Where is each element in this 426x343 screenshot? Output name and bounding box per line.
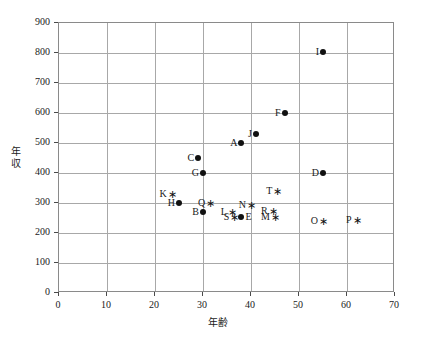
x-axis-tick — [202, 292, 203, 296]
data-point-label: I — [316, 47, 319, 57]
data-point-label: T — [266, 186, 272, 196]
data-point-label: E — [245, 212, 251, 222]
x-axis-tick-label: 50 — [283, 299, 313, 310]
y-axis-tick — [54, 232, 58, 233]
data-point-label: O — [311, 216, 318, 226]
data-point-label: A — [230, 138, 237, 148]
data-point-label: Q — [198, 198, 205, 208]
data-point-p: ∗P — [353, 217, 361, 223]
y-axis-tick-label: 100 — [20, 256, 50, 267]
x-axis-tick-label: 0 — [43, 299, 73, 310]
data-point-s: ∗S — [230, 214, 238, 220]
dot-marker-icon — [195, 155, 201, 161]
gridline-vertical — [107, 23, 108, 291]
data-point-r: ∗R — [269, 208, 277, 214]
y-axis-tick-label: 500 — [20, 136, 50, 147]
asterisk-marker-icon: ∗ — [273, 188, 281, 194]
gridline-horizontal — [59, 83, 393, 84]
x-axis-tick — [250, 292, 251, 296]
y-axis-tick — [54, 52, 58, 53]
dot-marker-icon — [320, 49, 326, 55]
plot-area: ABCDEFGHIJ∗K∗L∗M∗N∗O∗P∗Q∗R∗S∗T — [58, 22, 394, 292]
data-point-d: D — [320, 170, 326, 176]
asterisk-marker-icon: ∗ — [230, 214, 238, 220]
y-axis-tick-label: 800 — [20, 46, 50, 57]
y-axis-tick — [54, 262, 58, 263]
gridline-vertical — [251, 23, 252, 291]
data-point-g: G — [200, 170, 206, 176]
data-point-label: J — [248, 129, 252, 139]
data-point-label: S — [224, 212, 230, 222]
data-point-a: A — [238, 140, 244, 146]
y-axis-tick-label: 300 — [20, 196, 50, 207]
gridline-vertical — [347, 23, 348, 291]
data-point-f: F — [282, 110, 288, 116]
dot-marker-icon — [238, 214, 244, 220]
y-axis-tick — [54, 292, 58, 293]
x-axis-tick — [346, 292, 347, 296]
data-point-c: C — [195, 155, 201, 161]
x-axis-title: 年齢 — [208, 317, 228, 328]
data-point-label: P — [346, 215, 352, 225]
asterisk-marker-icon: ∗ — [353, 217, 361, 223]
y-axis-tick — [54, 172, 58, 173]
data-point-o: ∗O — [319, 218, 327, 224]
gridline-vertical — [299, 23, 300, 291]
data-point-label: C — [188, 153, 195, 163]
data-point-h: H — [176, 200, 182, 206]
gridline-horizontal — [59, 173, 393, 174]
data-point-j: J — [253, 131, 259, 137]
dot-marker-icon — [253, 131, 259, 137]
x-axis-tick-label: 10 — [91, 299, 121, 310]
x-axis-tick-label: 60 — [331, 299, 361, 310]
gridline-horizontal — [59, 143, 393, 144]
y-axis-tick — [54, 22, 58, 23]
data-point-i: I — [320, 49, 326, 55]
asterisk-marker-icon: ∗ — [168, 191, 176, 197]
y-axis-tick-label: 200 — [20, 226, 50, 237]
y-axis-tick-label: 400 — [20, 166, 50, 177]
y-axis-tick-label: 700 — [20, 76, 50, 87]
gridline-vertical — [203, 23, 204, 291]
dot-marker-icon — [200, 209, 206, 215]
y-axis-tick — [54, 82, 58, 83]
dot-marker-icon — [282, 110, 288, 116]
scatter-chart: ABCDEFGHIJ∗K∗L∗M∗N∗O∗P∗Q∗R∗S∗T 年収 年齢 010… — [0, 0, 426, 343]
x-axis-tick — [298, 292, 299, 296]
x-axis-tick-label: 40 — [235, 299, 265, 310]
x-axis-tick-label: 20 — [139, 299, 169, 310]
x-axis-tick-label: 70 — [379, 299, 409, 310]
data-point-e: E — [238, 214, 244, 220]
dot-marker-icon — [238, 140, 244, 146]
data-point-label: G — [192, 168, 199, 178]
y-axis-tick — [54, 202, 58, 203]
y-axis-title-char: 年 — [10, 146, 22, 158]
data-point-label: K — [160, 189, 167, 199]
x-axis-tick — [394, 292, 395, 296]
y-axis-tick-label: 900 — [20, 16, 50, 27]
asterisk-marker-icon: ∗ — [206, 200, 214, 206]
x-axis-tick — [106, 292, 107, 296]
dot-marker-icon — [320, 170, 326, 176]
x-axis-tick — [154, 292, 155, 296]
gridline-horizontal — [59, 263, 393, 264]
data-point-t: ∗T — [273, 188, 281, 194]
data-point-label: F — [275, 108, 281, 118]
asterisk-marker-icon: ∗ — [247, 202, 255, 208]
data-point-label: D — [312, 168, 319, 178]
data-point-q: ∗Q — [206, 200, 214, 206]
y-axis-tick — [54, 142, 58, 143]
asterisk-marker-icon: ∗ — [269, 208, 277, 214]
dot-marker-icon — [200, 170, 206, 176]
gridline-horizontal — [59, 203, 393, 204]
data-point-label: R — [261, 206, 268, 216]
y-axis-tick — [54, 112, 58, 113]
data-point-label: B — [192, 207, 199, 217]
x-axis-tick — [58, 292, 59, 296]
y-axis-tick-label: 600 — [20, 106, 50, 117]
x-axis-tick-label: 30 — [187, 299, 217, 310]
data-point-label: N — [239, 200, 246, 210]
data-point-k: ∗K — [168, 191, 176, 197]
dot-marker-icon — [176, 200, 182, 206]
data-point-n: ∗N — [247, 202, 255, 208]
